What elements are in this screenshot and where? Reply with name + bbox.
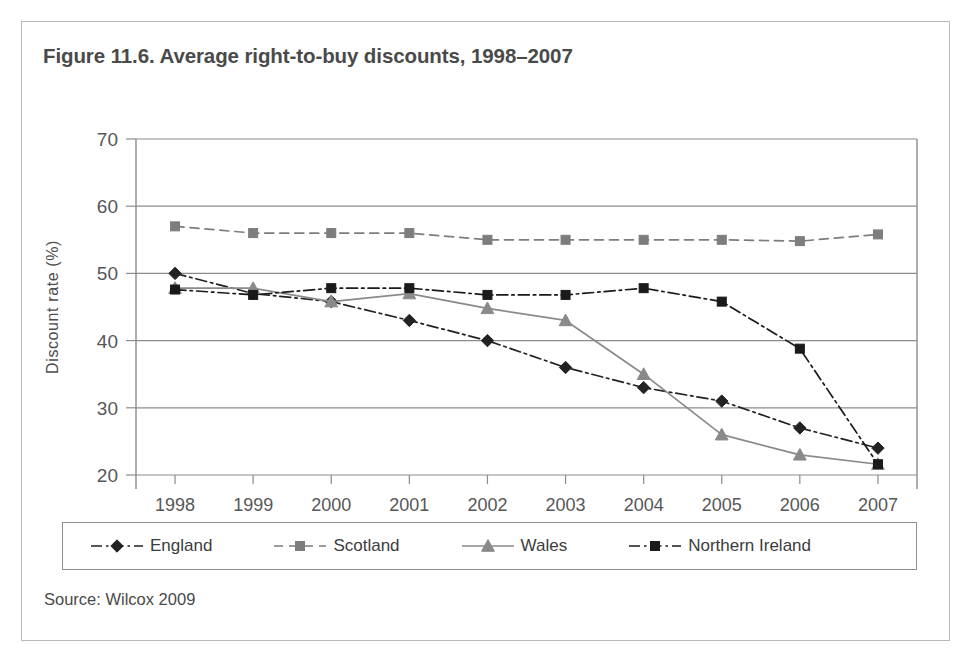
data-point-marker bbox=[327, 229, 336, 238]
series-line bbox=[175, 288, 878, 464]
data-point-marker bbox=[111, 540, 123, 552]
legend-swatch-square-icon bbox=[627, 537, 683, 555]
data-point-marker bbox=[561, 290, 570, 299]
data-point-marker bbox=[481, 334, 493, 346]
legend-label: Scotland bbox=[333, 536, 399, 556]
data-point-marker bbox=[403, 314, 415, 326]
x-tick-label: 1998 bbox=[155, 495, 195, 515]
y-tick-label: 20 bbox=[97, 465, 118, 486]
y-tick-label: 60 bbox=[97, 196, 118, 217]
y-tick-label: 40 bbox=[97, 331, 118, 352]
data-point-marker bbox=[717, 235, 726, 244]
chart-series-layer bbox=[169, 222, 885, 470]
x-tick-label: 2005 bbox=[702, 495, 742, 515]
y-tick-label: 50 bbox=[97, 263, 118, 284]
series-scotland bbox=[171, 222, 883, 246]
data-point-marker bbox=[794, 422, 806, 434]
series-line bbox=[175, 273, 878, 448]
data-point-marker bbox=[639, 235, 648, 244]
data-point-marker bbox=[639, 284, 648, 293]
x-tick-label: 2003 bbox=[546, 495, 586, 515]
data-point-marker bbox=[715, 428, 728, 440]
data-point-marker bbox=[171, 285, 180, 294]
y-tick-label: 70 bbox=[97, 129, 118, 150]
x-axis-ticks: 1998199920002001200220032004200520062007 bbox=[155, 475, 898, 515]
page-title: Figure 11.6. Average right-to-buy discou… bbox=[43, 44, 923, 68]
series-wales bbox=[169, 282, 885, 470]
data-point-marker bbox=[483, 235, 492, 244]
data-point-marker bbox=[249, 290, 258, 299]
x-tick-label: 2001 bbox=[389, 495, 429, 515]
x-tick-label: 2006 bbox=[780, 495, 820, 515]
legend-item-northern-ireland[interactable]: Northern Ireland bbox=[627, 536, 811, 556]
legend-item-england[interactable]: England bbox=[89, 536, 212, 556]
chart-plot-area: 203040506070 199819992000200120022003200… bbox=[22, 84, 951, 524]
data-point-marker bbox=[249, 229, 258, 238]
data-point-marker bbox=[561, 235, 570, 244]
data-point-marker bbox=[559, 361, 571, 373]
data-point-marker bbox=[405, 229, 414, 238]
legend-item-scotland[interactable]: Scotland bbox=[272, 536, 399, 556]
data-point-marker bbox=[872, 442, 884, 454]
x-tick-label: 2000 bbox=[311, 495, 351, 515]
data-point-marker bbox=[651, 542, 660, 551]
data-point-marker bbox=[873, 460, 882, 469]
legend-label: England bbox=[150, 536, 212, 556]
data-point-marker bbox=[717, 297, 726, 306]
figure-card: Figure 11.6. Average right-to-buy discou… bbox=[21, 21, 950, 641]
series-northern-ireland bbox=[171, 284, 883, 469]
data-point-marker bbox=[327, 284, 336, 293]
source-note: Source: Wilcox 2009 bbox=[44, 590, 195, 609]
legend-swatch-diamond-icon bbox=[89, 537, 145, 555]
x-tick-label: 1999 bbox=[233, 495, 273, 515]
data-point-marker bbox=[873, 230, 882, 239]
data-point-marker bbox=[483, 290, 492, 299]
data-point-marker bbox=[795, 237, 804, 246]
x-tick-label: 2007 bbox=[858, 495, 898, 515]
series-line bbox=[175, 226, 878, 241]
x-tick-label: 2002 bbox=[467, 495, 507, 515]
data-point-marker bbox=[716, 395, 728, 407]
y-axis-title: Discount rate (%) bbox=[44, 240, 61, 374]
legend-label: Wales bbox=[521, 536, 568, 556]
legend-item-wales[interactable]: Wales bbox=[460, 536, 568, 556]
legend-label: Northern Ireland bbox=[688, 536, 811, 556]
chart-legend: EnglandScotlandWalesNorthern Ireland bbox=[62, 522, 917, 570]
y-tick-label: 30 bbox=[97, 398, 118, 419]
x-tick-label: 2004 bbox=[624, 495, 664, 515]
data-point-marker bbox=[405, 284, 414, 293]
y-axis-ticks: 203040506070 bbox=[97, 129, 136, 486]
legend-swatch-square-icon bbox=[272, 537, 328, 555]
data-point-marker bbox=[637, 368, 650, 380]
line-chart: 203040506070 199819992000200120022003200… bbox=[22, 84, 951, 524]
data-point-marker bbox=[296, 542, 305, 551]
data-point-marker bbox=[169, 267, 181, 279]
legend-swatch-triangle-icon bbox=[460, 537, 516, 555]
data-point-marker bbox=[171, 222, 180, 231]
data-point-marker bbox=[795, 344, 804, 353]
data-point-marker bbox=[637, 381, 649, 393]
